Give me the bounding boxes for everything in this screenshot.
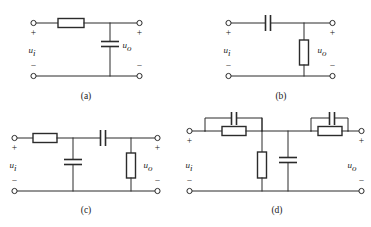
panel-b-terminal-output-positive[interactable] xyxy=(330,20,335,25)
panel-c-terminal-input-positive[interactable] xyxy=(12,135,17,140)
panel-a-sign-minus-right: − xyxy=(137,61,142,71)
panel-c-input-voltage-label: ui xyxy=(9,160,17,173)
panel-d-sign-plus-right: + xyxy=(359,136,364,146)
panel-a-sign-plus-left: + xyxy=(31,28,36,38)
panel-a-series-resistor xyxy=(58,19,84,28)
panel-d-sign-minus-left: − xyxy=(187,176,192,186)
panel-d-terminal-output-negative[interactable] xyxy=(359,188,364,193)
panel-d-shunt-resistor-mid xyxy=(258,152,267,178)
circuit-diagram-canvas: + + − − ui uo (a) xyxy=(0,0,371,227)
panel-a-terminal-input-negative[interactable] xyxy=(31,73,36,78)
panel-c-terminal-output-negative[interactable] xyxy=(155,188,160,193)
panel-d-input-voltage-label: ui xyxy=(185,160,193,173)
panel-b-terminal-output-negative[interactable] xyxy=(330,73,335,78)
panel-c-output-voltage-label: uo xyxy=(144,160,154,173)
panel-a: + + − − ui uo (a) xyxy=(28,19,142,103)
panel-b-terminal-input-negative[interactable] xyxy=(226,73,231,78)
panel-c-caption: (c) xyxy=(81,205,92,216)
panel-d-sign-plus-left: + xyxy=(187,136,192,146)
panel-c-terminal-input-negative[interactable] xyxy=(12,188,17,193)
panel-c-shunt-resistor-2 xyxy=(127,153,136,178)
panel-b-sign-minus-right: − xyxy=(330,61,335,71)
panel-a-terminal-output-negative[interactable] xyxy=(137,73,142,78)
panel-b-input-voltage-label: ui xyxy=(223,45,231,58)
panel-d: + + − − ui uo (d) xyxy=(185,112,364,216)
panel-a-input-voltage-label: ui xyxy=(28,45,36,58)
figure-root: + + − − ui uo (a) xyxy=(0,0,371,227)
panel-b-caption: (b) xyxy=(275,91,286,102)
panel-a-sign-plus-right: + xyxy=(137,28,142,38)
panel-a-sign-minus-left: − xyxy=(31,61,36,71)
panel-c-series-resistor-1 xyxy=(33,134,57,143)
panel-b-output-voltage-label: uo xyxy=(318,45,328,58)
panel-b-sign-plus-right: + xyxy=(330,28,335,38)
panel-a-terminal-output-positive[interactable] xyxy=(137,20,142,25)
panel-a-output-voltage-label: uo xyxy=(123,40,133,53)
panel-b: + + − − ui uo (b) xyxy=(223,15,335,102)
panel-d-terminal-input-positive[interactable] xyxy=(187,128,192,133)
panel-b-sign-plus-left: + xyxy=(226,28,231,38)
panel-d-block1-resistor xyxy=(222,127,246,136)
panel-b-terminal-input-positive[interactable] xyxy=(226,20,231,25)
panel-d-terminal-input-negative[interactable] xyxy=(187,188,192,193)
panel-a-caption: (a) xyxy=(81,91,92,102)
panel-d-block2-resistor xyxy=(318,127,342,136)
panel-d-sign-minus-right: − xyxy=(359,176,364,186)
panel-d-output-voltage-label: uo xyxy=(348,160,358,173)
panel-d-caption: (d) xyxy=(271,205,282,216)
panel-c: + + − − ui uo (c) xyxy=(9,130,160,216)
panel-d-terminal-output-positive[interactable] xyxy=(359,128,364,133)
panel-c-terminal-output-positive[interactable] xyxy=(155,135,160,140)
panel-c-sign-minus-right: − xyxy=(155,176,160,186)
panel-b-shunt-resistor xyxy=(300,40,309,65)
panel-b-sign-minus-left: − xyxy=(226,61,231,71)
panel-c-sign-minus-left: − xyxy=(12,176,17,186)
panel-c-sign-plus-left: + xyxy=(12,143,17,153)
panel-c-sign-plus-right: + xyxy=(155,143,160,153)
panel-a-terminal-input-positive[interactable] xyxy=(31,20,36,25)
